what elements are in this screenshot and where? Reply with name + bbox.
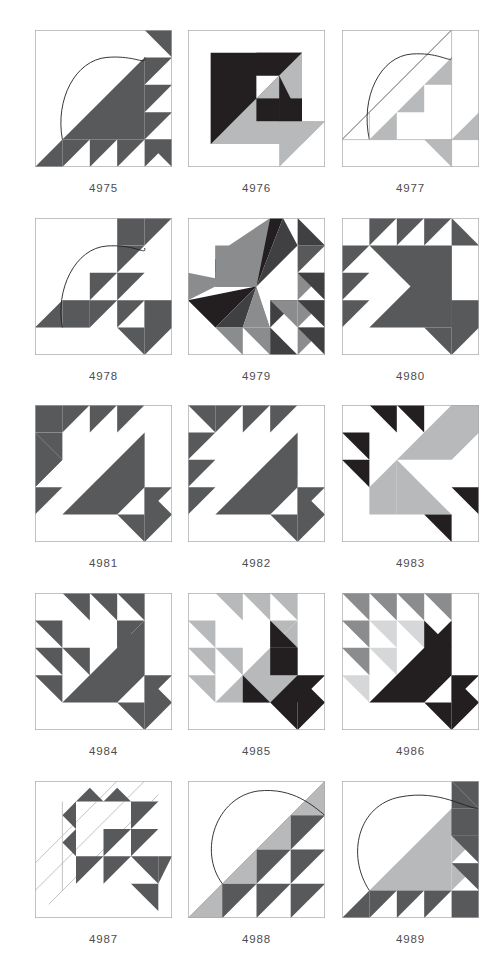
block-label-4984: 4984	[35, 745, 172, 757]
block-artwork-4987	[35, 781, 172, 918]
block-artwork-4981	[35, 405, 172, 542]
block-artwork-4977	[342, 30, 479, 167]
block-artwork-4989	[342, 781, 479, 918]
quilt-block-4979[interactable]	[188, 218, 325, 355]
quilt-block-4983[interactable]	[342, 405, 479, 542]
block-artwork-4982	[188, 405, 325, 542]
quilt-block-4984[interactable]	[35, 593, 172, 730]
block-label-4982: 4982	[188, 557, 325, 569]
quilt-block-4987[interactable]	[35, 781, 172, 918]
catalog-sheet: 4975497649774978497949804981498249834984…	[0, 0, 501, 959]
block-label-4981: 4981	[35, 557, 172, 569]
block-label-4987: 4987	[35, 933, 172, 945]
block-label-4977: 4977	[342, 182, 479, 194]
patch	[62, 300, 89, 327]
block-label-4983: 4983	[342, 557, 479, 569]
patch	[270, 648, 297, 675]
block-label-4976: 4976	[188, 182, 325, 194]
patch	[35, 405, 62, 432]
patch	[279, 98, 302, 121]
block-label-4978: 4978	[35, 370, 172, 382]
patch	[452, 891, 479, 918]
block-artwork-4984	[35, 593, 172, 730]
block-artwork-4975	[35, 30, 172, 167]
block-label-4980: 4980	[342, 370, 479, 382]
block-label-4979: 4979	[188, 370, 325, 382]
block-artwork-4976	[188, 30, 325, 167]
block-artwork-4979	[188, 218, 325, 355]
quilt-block-4989[interactable]	[342, 781, 479, 918]
quilt-block-4980[interactable]	[342, 218, 479, 355]
block-artwork-4980	[342, 218, 479, 355]
quilt-block-4986[interactable]	[342, 593, 479, 730]
block-label-4985: 4985	[188, 745, 325, 757]
patch	[215, 245, 256, 286]
block-label-4975: 4975	[35, 182, 172, 194]
block-artwork-4988	[188, 781, 325, 918]
block-artwork-4983	[342, 405, 479, 542]
quilt-block-4988[interactable]	[188, 781, 325, 918]
block-artwork-4978	[35, 218, 172, 355]
quilt-block-4976[interactable]	[188, 30, 325, 167]
block-label-4988: 4988	[188, 933, 325, 945]
quilt-block-4985[interactable]	[188, 593, 325, 730]
quilt-block-4982[interactable]	[188, 405, 325, 542]
block-label-4989: 4989	[342, 933, 479, 945]
block-artwork-4985	[188, 593, 325, 730]
quilt-block-4977[interactable]	[342, 30, 479, 167]
quilt-block-4981[interactable]	[35, 405, 172, 542]
patch	[256, 98, 279, 121]
quilt-block-4975[interactable]	[35, 30, 172, 167]
block-label-4986: 4986	[342, 745, 479, 757]
quilt-block-4978[interactable]	[35, 218, 172, 355]
patch	[117, 218, 144, 245]
block-artwork-4986	[342, 593, 479, 730]
